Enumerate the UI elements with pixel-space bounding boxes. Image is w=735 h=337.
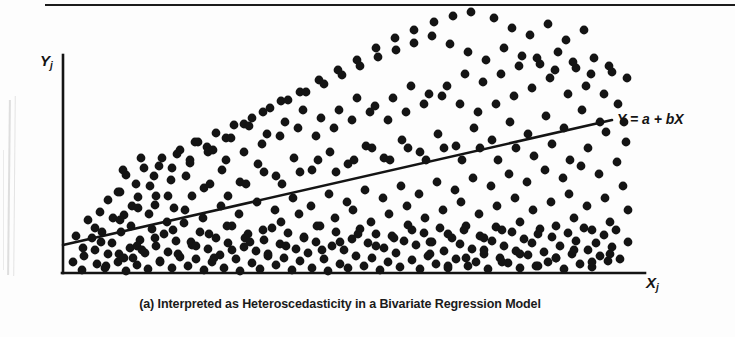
data-point bbox=[313, 222, 322, 231]
data-point bbox=[508, 24, 517, 33]
data-point bbox=[529, 206, 538, 215]
data-point bbox=[606, 218, 615, 227]
data-point bbox=[624, 238, 633, 247]
data-point bbox=[440, 247, 449, 256]
data-point bbox=[204, 245, 213, 254]
data-point bbox=[169, 226, 178, 235]
data-point bbox=[488, 237, 497, 246]
data-point bbox=[292, 245, 301, 254]
data-point bbox=[498, 226, 507, 235]
data-point bbox=[572, 237, 581, 246]
data-point bbox=[552, 222, 561, 231]
data-point bbox=[480, 246, 489, 255]
data-point bbox=[512, 144, 521, 153]
data-point bbox=[433, 178, 442, 187]
data-point bbox=[541, 166, 550, 175]
data-point bbox=[116, 216, 125, 225]
data-point bbox=[122, 267, 131, 276]
data-point bbox=[104, 250, 113, 259]
data-point bbox=[624, 206, 633, 215]
data-point bbox=[192, 255, 201, 264]
data-point bbox=[577, 162, 586, 171]
data-point bbox=[482, 56, 491, 65]
data-point bbox=[150, 172, 159, 181]
data-point bbox=[520, 235, 529, 244]
data-point bbox=[576, 260, 585, 269]
x-axis-label-subscript: j bbox=[656, 282, 659, 293]
data-point bbox=[132, 180, 141, 189]
data-point bbox=[260, 236, 269, 245]
data-point bbox=[430, 18, 439, 27]
data-point bbox=[254, 160, 263, 169]
data-point bbox=[356, 62, 365, 71]
data-point bbox=[404, 144, 413, 153]
figure-container: Yj Xj Y = a + bX (a) Interpreted as Hete… bbox=[0, 0, 735, 337]
data-point bbox=[151, 201, 160, 210]
data-point bbox=[534, 230, 543, 239]
data-point bbox=[151, 234, 160, 243]
data-point bbox=[410, 39, 419, 48]
data-point bbox=[245, 122, 254, 131]
data-point bbox=[446, 40, 455, 49]
data-point bbox=[340, 246, 349, 255]
data-point bbox=[605, 62, 614, 71]
data-point bbox=[524, 251, 533, 260]
data-point bbox=[600, 231, 609, 240]
data-point bbox=[170, 204, 179, 213]
data-point bbox=[416, 265, 425, 274]
data-point bbox=[436, 224, 445, 233]
data-point bbox=[156, 258, 165, 267]
data-point bbox=[488, 136, 497, 145]
data-point bbox=[284, 229, 293, 238]
data-point bbox=[296, 257, 305, 266]
data-point bbox=[230, 121, 239, 130]
data-point bbox=[181, 206, 190, 215]
data-point bbox=[227, 134, 236, 143]
data-point bbox=[623, 74, 632, 83]
data-point bbox=[398, 136, 407, 145]
data-point bbox=[228, 246, 237, 255]
data-point bbox=[544, 258, 553, 267]
y-axis-label-subscript: j bbox=[50, 60, 53, 71]
data-point bbox=[206, 180, 215, 189]
data-point bbox=[246, 238, 255, 247]
data-point bbox=[546, 74, 555, 83]
data-point bbox=[164, 248, 173, 257]
data-point bbox=[264, 250, 273, 259]
data-point bbox=[277, 218, 286, 227]
data-point bbox=[464, 262, 473, 271]
data-point bbox=[168, 164, 177, 173]
data-point bbox=[601, 194, 610, 203]
data-point bbox=[530, 152, 539, 161]
data-point bbox=[379, 194, 388, 203]
data-point bbox=[439, 206, 448, 215]
data-point bbox=[338, 71, 347, 80]
data-point bbox=[391, 34, 400, 43]
data-point bbox=[444, 262, 453, 271]
data-point bbox=[407, 82, 416, 91]
data-point bbox=[602, 128, 611, 137]
data-point bbox=[278, 180, 287, 189]
data-point bbox=[402, 108, 411, 117]
data-point bbox=[200, 266, 209, 275]
data-point bbox=[564, 90, 573, 99]
data-point bbox=[600, 90, 609, 99]
data-point bbox=[290, 154, 299, 163]
data-point bbox=[547, 198, 556, 207]
data-point bbox=[371, 102, 380, 111]
data-point bbox=[72, 232, 81, 241]
figure-caption: (a) Interpreted as Heteroscedasticity in… bbox=[0, 297, 680, 311]
data-point bbox=[367, 218, 376, 227]
data-point bbox=[108, 239, 117, 248]
data-point bbox=[518, 52, 527, 61]
data-point bbox=[304, 249, 313, 258]
scatter-plot bbox=[0, 0, 735, 337]
data-point bbox=[152, 192, 161, 201]
data-point bbox=[480, 234, 489, 243]
data-point bbox=[164, 192, 173, 201]
data-point bbox=[582, 82, 591, 91]
data-point bbox=[209, 146, 218, 155]
data-point bbox=[314, 156, 323, 165]
data-point bbox=[559, 174, 568, 183]
data-point bbox=[308, 166, 317, 175]
